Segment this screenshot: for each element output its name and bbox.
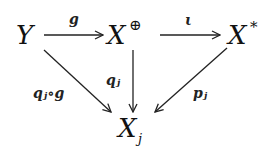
svg-text:*: * bbox=[250, 18, 258, 36]
arrow-g-label: g bbox=[69, 11, 79, 27]
svg-text:X: X bbox=[105, 20, 127, 50]
arrow-pj bbox=[155, 48, 227, 112]
commutative-diagram: Y X ⊕ X * X j g ι qⱼ∘g qⱼ pⱼ bbox=[0, 0, 276, 150]
arrow-pj-label: pⱼ bbox=[193, 85, 208, 101]
arrow-qj-compose-g bbox=[44, 50, 111, 112]
arrow-qj-label: qⱼ bbox=[106, 72, 121, 88]
node-X-j: X j bbox=[116, 113, 142, 146]
node-X-oplus: X ⊕ bbox=[105, 16, 142, 50]
node-Y: Y bbox=[16, 20, 36, 50]
svg-text:⊕: ⊕ bbox=[129, 16, 142, 34]
arrow-qj-compose-g-label: qⱼ∘g bbox=[33, 85, 64, 101]
svg-text:X: X bbox=[226, 20, 248, 50]
node-X-star: X * bbox=[226, 18, 258, 50]
arrow-iota-label: ι bbox=[185, 12, 192, 28]
svg-text:X: X bbox=[116, 113, 138, 143]
